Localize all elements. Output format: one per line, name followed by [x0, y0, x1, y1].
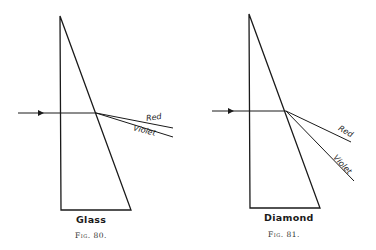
figure-caption: Fig. 80. [75, 231, 107, 240]
figure-caption: Fig. 81. [268, 230, 300, 239]
prism-material-label: Diamond [264, 212, 314, 223]
prism-material-label: Glass [76, 214, 106, 225]
diamond-prism-figure [212, 14, 354, 208]
dispersion-diagram [0, 0, 376, 250]
